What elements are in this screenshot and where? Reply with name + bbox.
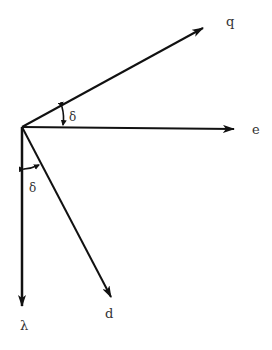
label-q: q [226, 14, 234, 29]
angle-arc-lower [24, 165, 39, 169]
vector-e-line [22, 127, 234, 129]
label-lambda: λ [20, 318, 28, 333]
label-e: e [252, 122, 260, 137]
angle-label-delta-lower: δ [29, 181, 36, 195]
angle-label-delta-upper: δ [69, 110, 76, 124]
label-d: d [105, 306, 113, 321]
vector-q-line [22, 28, 203, 127]
vector-d-line [22, 127, 111, 297]
angle-arc-upper [62, 107, 64, 125]
vector-diagram: q e d λ δ δ [0, 0, 272, 350]
